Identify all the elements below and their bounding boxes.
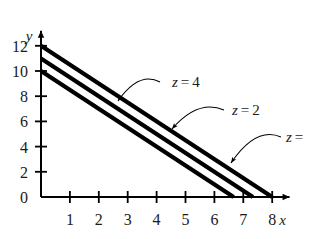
leader-line bbox=[231, 134, 281, 163]
contour-line bbox=[41, 71, 234, 197]
plot-canvas: 12345678024681012 z=4z=2z= xy bbox=[0, 0, 314, 239]
y-axis-tick-label: 2 bbox=[20, 164, 28, 181]
y-axis-tick-label: 4 bbox=[20, 139, 28, 156]
x-axis-tick-label: 8 bbox=[268, 211, 276, 228]
contour-label: z= bbox=[285, 129, 303, 145]
contour-line bbox=[41, 46, 272, 197]
leader-line bbox=[118, 79, 160, 101]
objective-contour-figure: 12345678024681012 z=4z=2z= xy bbox=[0, 0, 314, 239]
x-axis-tick-label: 4 bbox=[153, 211, 161, 228]
x-axis-arrowhead bbox=[283, 194, 290, 200]
contour-label: z=4 bbox=[171, 74, 200, 90]
y-axis-tick-label: 6 bbox=[20, 113, 28, 130]
y-axis-tick-label: 8 bbox=[20, 88, 28, 105]
y-axis-tick-label: 10 bbox=[12, 63, 28, 80]
x-axis-tick-label: 1 bbox=[66, 211, 74, 228]
x-axis-tick-label: 6 bbox=[210, 211, 218, 228]
x-axis-tick-label: 5 bbox=[182, 211, 190, 228]
contour-lines-group bbox=[41, 46, 272, 197]
x-axis-tick-label: 3 bbox=[124, 211, 132, 228]
x-axis-tick-label: 7 bbox=[239, 211, 247, 228]
x-axis-tick-label: 2 bbox=[95, 211, 103, 228]
contour-label: z=2 bbox=[231, 102, 260, 118]
y-axis-tick-label: 0 bbox=[20, 189, 28, 206]
leader-line bbox=[172, 107, 224, 129]
contour-labels-group: z=4z=2z= bbox=[171, 74, 303, 145]
y-axis-name-label: y bbox=[24, 28, 33, 44]
y-axis-arrowhead bbox=[38, 31, 44, 38]
x-axis-name-label: x bbox=[278, 212, 286, 228]
